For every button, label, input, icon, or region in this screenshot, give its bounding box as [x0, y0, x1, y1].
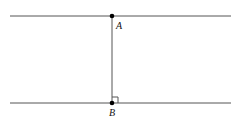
point-a-dot	[110, 14, 115, 19]
point-a-label: A	[115, 20, 123, 31]
geometry-diagram: A B	[0, 0, 240, 121]
point-b-label: B	[109, 107, 115, 118]
point-b-dot	[110, 101, 115, 106]
